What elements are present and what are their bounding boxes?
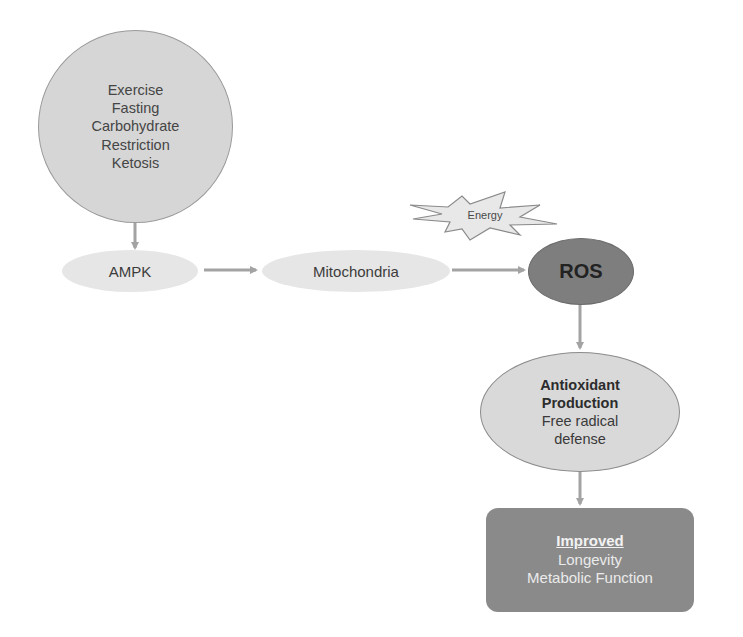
input-ketosis: Ketosis <box>112 154 160 172</box>
mitochondria-label: Mitochondria <box>313 263 399 280</box>
outcome-node: Improved Longevity Metabolic Function <box>486 508 694 612</box>
input-carbohydrate: Carbohydrate <box>92 117 180 135</box>
outcome-metabolic-function: Metabolic Function <box>527 569 653 588</box>
input-exercise: Exercise <box>108 81 164 99</box>
antioxidant-body-1: Free radical <box>542 412 619 430</box>
outcome-title: Improved <box>556 532 624 551</box>
antioxidant-title-2: Production <box>542 394 619 412</box>
antioxidant-node: Antioxidant Production Free radical defe… <box>480 352 680 472</box>
outcome-longevity: Longevity <box>558 551 622 570</box>
ampk-label: AMPK <box>109 263 152 280</box>
antioxidant-body-2: defense <box>554 430 606 448</box>
energy-label: Energy <box>463 209 507 221</box>
ros-node: ROS <box>528 238 634 305</box>
input-restriction: Restriction <box>101 136 170 154</box>
input-fasting: Fasting <box>112 99 160 117</box>
ros-label: ROS <box>559 260 602 283</box>
mitochondria-node: Mitochondria <box>262 250 450 292</box>
ampk-node: AMPK <box>62 250 198 292</box>
antioxidant-title-1: Antioxidant <box>540 376 620 394</box>
inputs-node: Exercise Fasting Carbohydrate Restrictio… <box>38 30 233 223</box>
